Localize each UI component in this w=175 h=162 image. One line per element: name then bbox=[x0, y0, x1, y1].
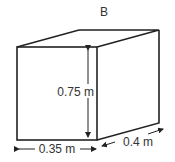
depth-label: 0.4 m bbox=[123, 135, 153, 149]
width-label: 0.35 m bbox=[39, 142, 76, 156]
top-face bbox=[17, 30, 159, 47]
height-label: 0.75 m bbox=[57, 85, 94, 99]
cuboid-diagram: B 0.75 m 0.35 m 0.4 m bbox=[0, 0, 175, 162]
depth-arrow-right bbox=[148, 129, 163, 134]
right-face bbox=[97, 30, 159, 140]
diagram-title: B bbox=[100, 5, 108, 19]
depth-arrow-left bbox=[102, 142, 115, 146]
